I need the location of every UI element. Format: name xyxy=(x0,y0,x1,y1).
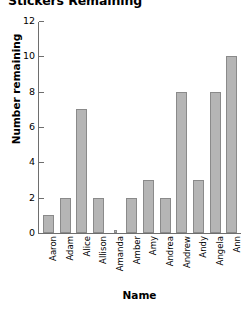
y-axis-title: Number remaining xyxy=(10,29,22,149)
bar[interactable] xyxy=(76,109,87,233)
bar[interactable] xyxy=(193,180,204,233)
y-tick-label: 8 xyxy=(29,86,35,97)
bar[interactable] xyxy=(176,92,187,233)
x-label-slot: Ann xyxy=(223,236,240,286)
y-tick-label: 6 xyxy=(29,121,35,132)
bar-slot xyxy=(223,22,240,233)
chart-title: Stickers Remaining xyxy=(8,0,142,8)
bar[interactable] xyxy=(126,198,137,233)
bar[interactable] xyxy=(226,56,237,233)
x-tick-label: Ann xyxy=(232,236,242,253)
bar[interactable] xyxy=(114,230,117,233)
bar-slot xyxy=(107,22,124,233)
bar-chart: Stickers Remaining Number remaining 0246… xyxy=(0,0,245,309)
x-axis-line xyxy=(38,233,241,234)
y-tick-label: 2 xyxy=(29,192,35,203)
x-axis-tick-labels: AaronAdamAliceAllisonAmandaAmberAmyAndre… xyxy=(39,236,241,286)
x-label-slot: Alice xyxy=(73,236,90,286)
x-label-slot: Amber xyxy=(123,236,140,286)
bar[interactable] xyxy=(93,198,104,233)
bar-slot xyxy=(90,22,107,233)
bar-slot xyxy=(173,22,190,233)
bar-slot xyxy=(40,22,57,233)
bar-slot xyxy=(123,22,140,233)
x-label-slot: Andrew xyxy=(173,236,190,286)
y-tick-label: 12 xyxy=(23,15,35,26)
bar-slot xyxy=(140,22,157,233)
bar[interactable] xyxy=(43,215,54,233)
x-label-slot: Andy xyxy=(190,236,207,286)
bar[interactable] xyxy=(210,92,221,233)
bar-slot xyxy=(57,22,74,233)
y-tick-label: 0 xyxy=(29,227,35,238)
y-tick-label: 4 xyxy=(29,156,35,167)
x-label-slot: Andrea xyxy=(157,236,174,286)
bar[interactable] xyxy=(143,180,154,233)
bar-slot xyxy=(157,22,174,233)
x-label-slot: Amanda xyxy=(107,236,124,286)
bar-slot xyxy=(73,22,90,233)
bar[interactable] xyxy=(160,198,171,233)
y-tick: 0 xyxy=(39,233,44,234)
x-label-slot: Adam xyxy=(57,236,74,286)
bar-slot xyxy=(190,22,207,233)
plot-area: 024681012 xyxy=(38,22,241,234)
x-axis-title: Name xyxy=(38,289,241,301)
x-label-slot: Allison xyxy=(90,236,107,286)
bar-slot xyxy=(207,22,224,233)
x-label-slot: Aaron xyxy=(40,236,57,286)
y-tick-label: 10 xyxy=(23,50,35,61)
bar-series xyxy=(39,22,241,233)
bar[interactable] xyxy=(60,198,71,233)
x-label-slot: Amy xyxy=(140,236,157,286)
x-label-slot: Angela xyxy=(207,236,224,286)
